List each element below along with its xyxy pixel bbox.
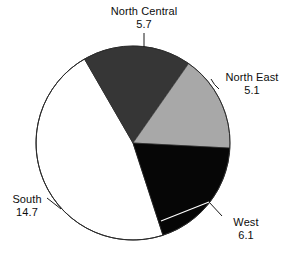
pie-label-west-value: 6.1 (222, 229, 270, 242)
pie-label-north-central-name: North Central (98, 5, 190, 18)
pie-label-west-name: West (222, 216, 270, 229)
pie-label-north-east: North East 5.1 (221, 71, 283, 97)
pie-chart-figure: North Central 5.7 North East 5.1 West 6.… (0, 0, 283, 256)
leader-line-west (209, 202, 222, 216)
pie-label-north-central-value: 5.7 (98, 18, 190, 31)
pie-label-south: South 14.7 (3, 193, 51, 219)
pie-label-north-central: North Central 5.7 (98, 5, 190, 31)
pie-label-north-east-value: 5.1 (221, 84, 283, 97)
pie-label-south-value: 14.7 (3, 206, 51, 219)
pie-label-west: West 6.1 (222, 216, 270, 242)
pie-label-north-east-name: North East (221, 71, 283, 84)
pie-label-south-name: South (3, 193, 51, 206)
